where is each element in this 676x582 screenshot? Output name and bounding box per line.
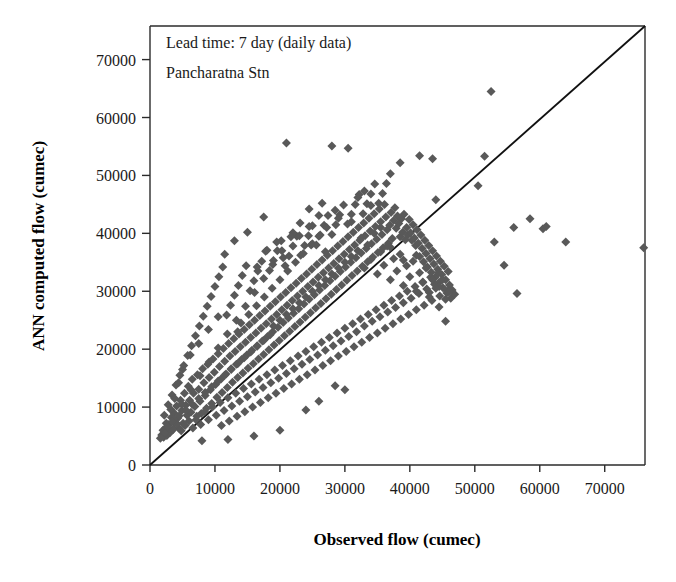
plot-svg: 010000200003000040000500006000070000 010… [0, 0, 676, 582]
y-tick-label: 10000 [96, 399, 136, 416]
x-axis-title: Observed flow (cumec) [313, 530, 480, 549]
y-tick-label: 70000 [96, 52, 136, 69]
y-tick-label: 20000 [96, 341, 136, 358]
x-tick-label: 10000 [195, 480, 235, 497]
x-tick-label: 60000 [520, 480, 560, 497]
x-tick-label: 50000 [455, 480, 495, 497]
y-tick-label: 40000 [96, 225, 136, 242]
x-tick-label: 70000 [585, 480, 625, 497]
annotation-station: Pancharatna Stn [166, 64, 270, 81]
x-tick-label: 0 [146, 480, 154, 497]
x-tick-label: 20000 [260, 480, 300, 497]
x-tick-label: 40000 [390, 480, 430, 497]
y-axis-title: ANN computed flow (cumec) [29, 141, 48, 351]
x-tick-label: 30000 [325, 480, 365, 497]
y-tick-label: 50000 [96, 167, 136, 184]
y-tick-label: 0 [128, 457, 136, 474]
y-tick-label: 30000 [96, 283, 136, 300]
scatter-chart-figure: 010000200003000040000500006000070000 010… [0, 0, 676, 582]
annotation-lead-time: Lead time: 7 day (daily data) [166, 34, 351, 52]
y-tick-label: 60000 [96, 110, 136, 127]
